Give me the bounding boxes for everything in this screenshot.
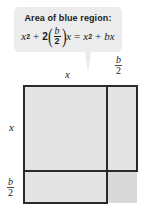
formula-plus: + — [33, 30, 39, 42]
formula-fraction: b 2 — [54, 26, 61, 46]
outline-left — [23, 85, 25, 203]
bottom-strip-region — [23, 170, 107, 202]
top-half-b-den: 2 — [116, 66, 121, 76]
formula-exp: 2 — [26, 33, 30, 40]
left-half-b-den: 2 — [8, 188, 13, 198]
left-x-label: x — [9, 121, 14, 133]
area-formula: x2 + 2 ( b 2 ) x = x2 + bx — [14, 24, 122, 48]
left-paren: ( — [48, 26, 53, 46]
top-x-label: x — [65, 68, 70, 80]
outline-top — [23, 85, 138, 87]
area-callout: Area of blue region: x2 + 2 ( b 2 ) x = … — [14, 7, 122, 52]
formula-plus-2: + — [95, 30, 101, 42]
callout-title: Area of blue region: — [14, 13, 122, 23]
outline-bottom — [23, 202, 108, 204]
formula-var: x — [66, 30, 71, 42]
formula-rhs-exp: 2 — [88, 33, 92, 40]
corner-square — [107, 171, 137, 203]
right-paren: ) — [62, 26, 67, 46]
callout-pointer — [85, 52, 91, 74]
divider-vertical — [106, 85, 108, 203]
top-half-b-label: b 2 — [115, 55, 122, 76]
left-half-b-label: b 2 — [7, 177, 14, 198]
formula-rhs-bx: bx — [104, 30, 114, 42]
top-region — [23, 85, 137, 170]
divider-horizontal — [23, 170, 138, 172]
formula-equals: = — [74, 30, 80, 42]
outline-right — [136, 85, 138, 171]
fraction-denominator: 2 — [55, 37, 60, 46]
top-x-text: x — [65, 68, 70, 80]
left-x-text: x — [9, 121, 14, 133]
